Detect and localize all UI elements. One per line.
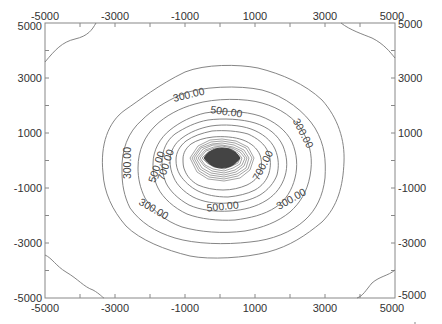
- svg-text:300.00: 300.00: [172, 84, 206, 103]
- svg-text:-3000: -3000: [398, 237, 426, 249]
- svg-text:-3000: -3000: [101, 10, 129, 22]
- svg-text:3000: 3000: [313, 302, 337, 314]
- svg-text:-1000: -1000: [14, 182, 42, 194]
- svg-text:-5000: -5000: [398, 289, 426, 301]
- svg-text:500.00: 500.00: [210, 103, 244, 119]
- svg-text:5000: 5000: [18, 20, 42, 32]
- svg-text:700.00: 700.00: [250, 148, 276, 182]
- svg-text:-1000: -1000: [171, 302, 199, 314]
- svg-text:1000: 1000: [18, 127, 42, 139]
- svg-text:500.00: 500.00: [206, 198, 239, 213]
- svg-text:3000: 3000: [398, 72, 422, 84]
- svg-text:1000: 1000: [398, 127, 422, 139]
- svg-text:5000: 5000: [398, 18, 422, 30]
- svg-text:-3000: -3000: [101, 302, 129, 314]
- top-axis-labels: -5000 -3000 -1000 1000 3000 5000: [31, 10, 404, 22]
- svg-text:1000: 1000: [243, 302, 267, 314]
- svg-text:300.00: 300.00: [121, 147, 133, 179]
- svg-text:300.00: 300.00: [291, 116, 317, 150]
- left-axis-labels: 5000 3000 1000 -1000 -3000 -5000: [14, 20, 42, 304]
- svg-text:-1000: -1000: [171, 10, 199, 22]
- svg-text:5000: 5000: [380, 302, 404, 314]
- svg-text:-1000: -1000: [398, 182, 426, 194]
- svg-text:-3000: -3000: [14, 237, 42, 249]
- svg-text:3000: 3000: [313, 10, 337, 22]
- svg-text:-5000: -5000: [14, 292, 42, 304]
- right-axis-labels: 5000 3000 1000 -1000 -3000 -5000: [398, 18, 426, 301]
- bottom-axis-labels: -5000 -3000 -1000 1000 3000 5000: [31, 302, 404, 314]
- svg-text:3000: 3000: [18, 72, 42, 84]
- contour-plot: -5000 -3000 -1000 1000 3000 5000 -5000 -…: [0, 0, 442, 324]
- svg-text:1000: 1000: [243, 10, 267, 22]
